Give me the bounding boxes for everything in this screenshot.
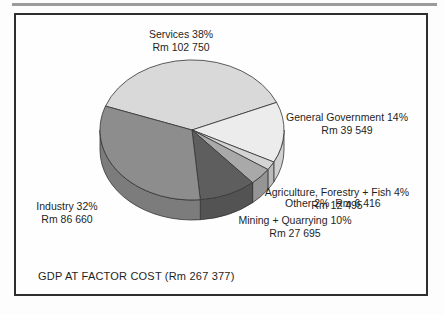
label-general-government-line2: Rm 39 549 (281, 124, 413, 137)
label-general-government: General Government 14% Rm 39 549 (281, 111, 413, 137)
chart-caption: GDP AT FACTOR COST (Rm 267 377) (38, 270, 298, 283)
label-agriculture-line1: Agriculture, Forestry + Fish 4% (261, 186, 413, 199)
label-mining-line2: Rm 27 695 (233, 227, 357, 240)
label-mining: Mining + Quarrying 10% Rm 27 695 (233, 214, 357, 240)
label-general-government-line1: General Government 14% (281, 111, 413, 124)
label-services: Services 38% Rm 102 750 (116, 28, 246, 54)
label-mining-line1: Mining + Quarrying 10% (233, 214, 357, 227)
label-services-line1: Services 38% (116, 28, 246, 41)
label-industry: Industry 32% Rm 86 660 (27, 200, 107, 226)
label-services-line2: Rm 102 750 (116, 41, 246, 54)
page: Services 38% Rm 102 750 General Governme… (0, 0, 445, 315)
label-agriculture: Agriculture, Forestry + Fish 4% Rm 12 49… (261, 186, 413, 212)
label-agriculture-line2: Rm 12 495 (261, 199, 413, 212)
label-industry-line2: Rm 86 660 (27, 213, 107, 226)
label-industry-line1: Industry 32% (27, 200, 107, 213)
